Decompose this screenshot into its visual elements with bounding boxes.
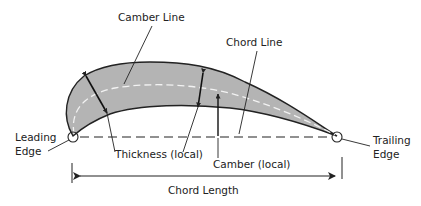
trailing-edge-marker [332,132,342,142]
label-chord-length: Chord Length [168,184,239,196]
label-chord-line: Chord Line [226,36,282,48]
label-leading-edge-line1: Leading [15,131,56,143]
label-leading-edge-line2: Edge [15,145,41,157]
label-camber: Camber (local) [213,158,290,170]
thickness-leader-1 [107,113,115,152]
airfoil-shape [66,62,337,136]
label-trailing-edge-line2: Edge [373,148,399,160]
thickness-leader-2 [183,104,199,152]
label-thickness: Thickness (local) [114,148,203,160]
airfoil-diagram: Camber Line Chord Line Leading Edge Trai… [0,0,421,206]
label-camber-line: Camber Line [118,11,185,23]
label-trailing-edge-line1: Trailing [372,134,411,146]
trailing-edge-leader [342,139,370,146]
